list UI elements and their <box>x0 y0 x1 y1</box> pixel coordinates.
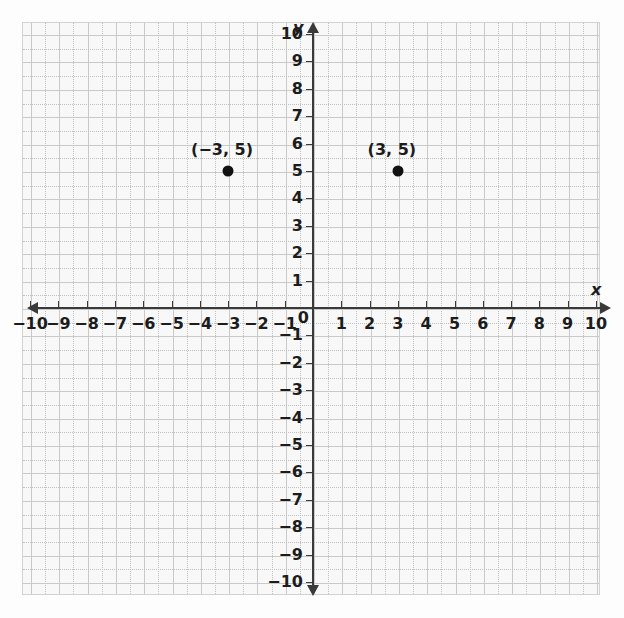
gridline-horizontal-minor <box>23 378 599 379</box>
gridline-horizontal <box>23 62 599 63</box>
x-axis-tick <box>285 301 286 308</box>
gridline-horizontal <box>23 583 599 584</box>
y-axis-label: y <box>293 20 303 36</box>
x-axis-tick <box>115 301 116 308</box>
x-axis-tick <box>539 301 540 308</box>
x-tick-label: 5 <box>449 316 460 332</box>
gridline-horizontal-minor <box>23 241 599 242</box>
y-tick-label: 5 <box>292 163 303 179</box>
gridline-horizontal-minor <box>23 76 599 77</box>
x-axis-tick <box>398 301 399 308</box>
y-axis-tick <box>306 390 313 391</box>
gridline-horizontal-minor <box>23 49 599 50</box>
y-axis-arrow-down <box>307 585 319 596</box>
gridline-horizontal-minor <box>23 295 599 296</box>
x-axis-tick <box>596 301 597 308</box>
x-tick-label: −10 <box>12 316 48 332</box>
gridline-horizontal <box>23 199 599 200</box>
gridline-horizontal-minor <box>23 432 599 433</box>
y-axis-arrow-up <box>307 22 319 33</box>
gridline-horizontal <box>23 391 599 392</box>
gridline-horizontal-minor <box>23 158 599 159</box>
y-axis-tick <box>306 363 313 364</box>
y-axis-tick <box>306 500 313 501</box>
x-tick-label: 7 <box>506 316 517 332</box>
y-tick-label: −9 <box>278 547 303 563</box>
y-axis-tick <box>306 171 313 172</box>
gridline-horizontal <box>23 528 599 529</box>
y-tick-label: −4 <box>278 410 303 426</box>
data-point-label: (3, 5) <box>368 142 417 158</box>
x-axis-tick <box>568 301 569 308</box>
gridline-horizontal <box>23 556 599 557</box>
gridline-horizontal-minor <box>23 350 599 351</box>
y-axis-tick <box>306 89 313 90</box>
x-axis-tick <box>511 301 512 308</box>
x-tick-label: −3 <box>216 316 241 332</box>
y-axis-tick <box>306 253 313 254</box>
x-tick-label: −9 <box>46 316 71 332</box>
x-tick-label: −2 <box>244 316 269 332</box>
y-tick-label: 6 <box>292 136 303 152</box>
gridline-horizontal <box>23 336 599 337</box>
gridline-horizontal <box>23 309 599 310</box>
x-tick-label: −7 <box>103 316 128 332</box>
gridline-horizontal-minor <box>23 487 599 488</box>
x-tick-label: 8 <box>534 316 545 332</box>
data-point <box>392 166 403 177</box>
y-tick-label: −1 <box>278 327 303 343</box>
origin-label: 0 <box>298 310 309 326</box>
y-tick-label: 7 <box>292 108 303 124</box>
y-axis-tick <box>306 198 313 199</box>
y-tick-label: 8 <box>292 81 303 97</box>
x-tick-label: −5 <box>159 316 184 332</box>
x-axis-arrow-right <box>600 302 611 314</box>
gridline-horizontal <box>23 172 599 173</box>
gridline-horizontal-minor <box>23 131 599 132</box>
y-axis-tick <box>306 34 313 35</box>
x-axis-label: x <box>591 282 601 298</box>
y-tick-label: 1 <box>292 273 303 289</box>
data-point <box>223 166 234 177</box>
x-axis-tick <box>87 301 88 308</box>
x-tick-label: 2 <box>364 316 375 332</box>
x-tick-label: 10 <box>585 316 607 332</box>
y-tick-label: 4 <box>292 190 303 206</box>
gridline-horizontal <box>23 501 599 502</box>
gridline-horizontal-minor <box>23 213 599 214</box>
x-axis-tick <box>58 301 59 308</box>
y-axis-tick <box>306 144 313 145</box>
y-tick-label: −5 <box>278 437 303 453</box>
gridline-horizontal <box>23 282 599 283</box>
y-tick-label: 2 <box>292 245 303 261</box>
x-axis-tick <box>228 301 229 308</box>
y-axis-tick <box>306 418 313 419</box>
gridline-horizontal-minor <box>23 268 599 269</box>
gridline-horizontal-minor <box>23 104 599 105</box>
gridline-horizontal-minor <box>23 542 599 543</box>
gridline-horizontal-minor <box>23 405 599 406</box>
x-tick-label: 6 <box>477 316 488 332</box>
x-axis-tick <box>256 301 257 308</box>
x-axis-tick <box>30 301 31 308</box>
gridline-horizontal-minor <box>23 186 599 187</box>
x-axis-tick <box>172 301 173 308</box>
x-tick-label: −6 <box>131 316 156 332</box>
x-tick-label: 4 <box>421 316 432 332</box>
x-tick-label: 1 <box>336 316 347 332</box>
gridline-horizontal <box>23 117 599 118</box>
y-axis-tick <box>306 335 313 336</box>
x-axis-tick <box>200 301 201 308</box>
y-axis-tick <box>306 582 313 583</box>
x-axis-tick <box>483 301 484 308</box>
gridline-horizontal <box>23 446 599 447</box>
y-axis-tick <box>306 61 313 62</box>
gridline-horizontal <box>23 90 599 91</box>
gridline-horizontal <box>23 419 599 420</box>
y-tick-label: −10 <box>267 574 303 590</box>
y-tick-label: −8 <box>278 519 303 535</box>
gridline-horizontal-minor <box>23 515 599 516</box>
gridline-horizontal <box>23 227 599 228</box>
coordinate-plane-figure: −10−9−8−7−6−5−4−3−2−11234567891010987654… <box>0 0 624 618</box>
y-axis-tick <box>306 445 313 446</box>
